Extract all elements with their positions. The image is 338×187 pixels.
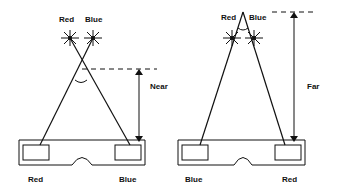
far-lens-label-left: Blue [185, 175, 203, 184]
far-lens-label-right: Red [282, 175, 297, 184]
glasses-frame [19, 140, 145, 165]
right-lens [115, 145, 141, 160]
left-lens [23, 145, 49, 160]
glasses-frame [178, 140, 305, 165]
near-star-label-left: Red [59, 15, 74, 24]
far-star-label-left: Red [221, 13, 236, 22]
near-diagram: Red Blue Near Red Blue [19, 15, 168, 184]
left-lens [182, 145, 208, 160]
far-star-label-right: Blue [249, 13, 267, 22]
far-diagram: Red Blue Far Blue Red [178, 12, 319, 184]
near-lens-label-right: Blue [119, 175, 137, 184]
right-lens [275, 145, 301, 160]
near-distance-label: Near [150, 82, 168, 91]
star-icon [223, 30, 241, 46]
near-star-label-right: Blue [85, 15, 103, 24]
near-lens-label-left: Red [28, 175, 43, 184]
far-distance-label: Far [307, 82, 319, 91]
star-icon [245, 30, 263, 46]
stereo-3d-glasses-diagram: Red Blue Near Red Blue Red Blue [0, 0, 338, 187]
